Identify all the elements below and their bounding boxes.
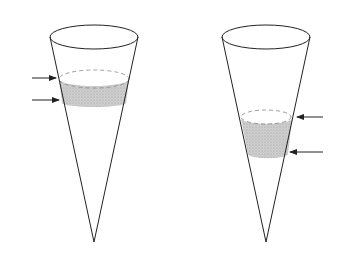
right-cone (222, 25, 323, 242)
left-cone (32, 25, 138, 242)
left-cone-rim (50, 25, 138, 49)
right-band-fill (241, 119, 292, 158)
cone-diagram (0, 0, 342, 256)
right-cone-rim (222, 25, 310, 49)
left-band-fill (59, 79, 129, 107)
left-cone-side-right (94, 37, 138, 242)
right-band-top-ellipse (241, 110, 291, 124)
left-cone-side-left (50, 37, 94, 242)
